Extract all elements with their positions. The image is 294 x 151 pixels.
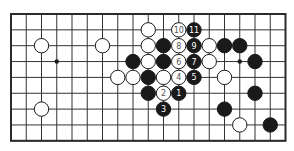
- black-stone: [248, 54, 262, 68]
- go-board: 1011896745213: [0, 0, 294, 151]
- white-stone: [141, 39, 155, 53]
- move-number: 11: [189, 26, 199, 35]
- star-point: [55, 59, 59, 63]
- move-number: 8: [176, 42, 181, 51]
- white-stone-icon: [126, 70, 140, 84]
- black-stone-move-7: 7: [187, 54, 201, 68]
- white-stone-icon: [111, 70, 125, 84]
- black-stone-icon: [248, 86, 262, 100]
- white-stone: [156, 70, 170, 84]
- white-stone-move-10: 10: [172, 23, 186, 37]
- white-stone: [95, 39, 109, 53]
- white-stone-move-8: 8: [172, 39, 186, 53]
- move-number: 9: [191, 42, 196, 51]
- move-number: 10: [174, 26, 184, 35]
- move-number: 4: [176, 73, 181, 82]
- white-stone-move-4: 4: [172, 70, 186, 84]
- black-stone: [126, 54, 140, 68]
- white-stone: [202, 39, 216, 53]
- white-stone-icon: [141, 39, 155, 53]
- black-stone: [156, 39, 170, 53]
- move-number: 6: [176, 58, 181, 67]
- white-stone: [202, 54, 216, 68]
- white-stone-move-2: 2: [156, 86, 170, 100]
- white-stone-icon: [217, 70, 231, 84]
- move-number: 1: [176, 89, 181, 98]
- white-stone-icon: [141, 54, 155, 68]
- white-stone: [217, 70, 231, 84]
- black-stone-icon: [141, 86, 155, 100]
- black-stone: [156, 54, 170, 68]
- black-stone: [233, 39, 247, 53]
- black-stone: [217, 39, 231, 53]
- white-stone-move-6: 6: [172, 54, 186, 68]
- white-stone-icon: [34, 102, 48, 116]
- white-stone: [141, 54, 155, 68]
- black-stone-icon: [217, 39, 231, 53]
- black-stone-icon: [263, 118, 277, 132]
- black-stone-move-3: 3: [156, 102, 170, 116]
- black-stone-icon: [217, 102, 231, 116]
- black-stone-move-9: 9: [187, 39, 201, 53]
- white-stone: [141, 23, 155, 37]
- white-stone: [126, 70, 140, 84]
- black-stone: [217, 102, 231, 116]
- black-stone-move-1: 1: [172, 86, 186, 100]
- star-point: [238, 59, 242, 63]
- move-number: 5: [191, 73, 196, 82]
- white-stone-icon: [95, 39, 109, 53]
- black-stone-icon: [156, 54, 170, 68]
- black-stone: [141, 86, 155, 100]
- black-stone-move-5: 5: [187, 70, 201, 84]
- black-stone: [263, 118, 277, 132]
- move-number: 7: [191, 58, 196, 67]
- move-number: 3: [161, 105, 166, 114]
- black-stone-icon: [156, 39, 170, 53]
- white-stone-icon: [202, 54, 216, 68]
- black-stone-icon: [233, 39, 247, 53]
- black-stone-icon: [141, 70, 155, 84]
- black-stone-icon: [248, 54, 262, 68]
- white-stone-icon: [233, 118, 247, 132]
- move-number: 2: [161, 89, 166, 98]
- black-stone: [248, 86, 262, 100]
- black-stone-move-11: 11: [187, 23, 201, 37]
- black-stone: [141, 70, 155, 84]
- white-stone-icon: [202, 39, 216, 53]
- white-stone: [34, 39, 48, 53]
- white-stone: [111, 70, 125, 84]
- black-stone-icon: [126, 54, 140, 68]
- white-stone-icon: [141, 23, 155, 37]
- white-stone-icon: [34, 39, 48, 53]
- white-stone: [34, 102, 48, 116]
- white-stone: [233, 118, 247, 132]
- white-stone-icon: [156, 70, 170, 84]
